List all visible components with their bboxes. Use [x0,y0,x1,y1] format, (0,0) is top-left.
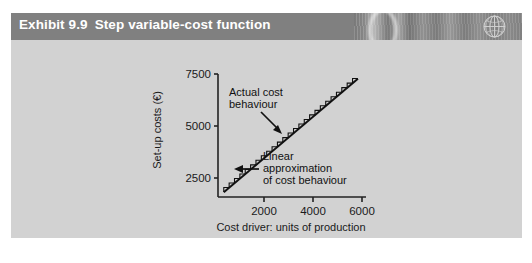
chart-area: Set-up costs (€) 7500 5000 2500 2000 400… [11,40,522,238]
exhibit-number: Exhibit 9.9 [19,17,88,32]
y-tick-label-2500: 2500 [185,172,211,184]
x-tick-label-4000: 4000 [300,205,326,217]
annotation-actual-line2: behaviour [229,98,278,110]
x-tick-label-6000: 6000 [349,205,375,217]
y-tick-label-7500: 7500 [185,68,211,80]
annotation-actual-line1: Actual cost [229,86,283,98]
exhibit-header-bar: Exhibit 9.9Step variable-cost function [11,13,522,40]
page-title: Exhibit 9.9Step variable-cost function [19,17,271,32]
annotation-linear-arrow-head [234,165,243,173]
exhibit-title: Step variable-cost function [95,17,271,32]
annotation-linear-line3: of cost behaviour [263,174,347,186]
step-variable-cost-chart: Set-up costs (€) 7500 5000 2500 2000 400… [151,42,391,236]
header-photo-blob [368,13,398,40]
annotation-linear-line1: Linear [263,150,294,162]
globe-icon [482,14,507,39]
x-axis-label: Cost driver: units of production [216,221,365,233]
exhibit-panel: Exhibit 9.9Step variable-cost function S… [11,13,522,238]
annotation-linear-line2: approximation [263,162,332,174]
y-axis-label: Set-up costs (€) [151,91,163,169]
y-tick-label-5000: 5000 [185,120,211,132]
x-tick-label-2000: 2000 [251,205,277,217]
